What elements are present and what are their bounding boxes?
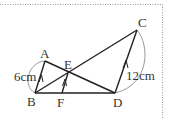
point-label-a: A <box>40 46 50 61</box>
measure-label-ab: 6cm <box>14 69 36 84</box>
point-label-e: E <box>64 57 72 72</box>
geometry-diagram: A B C D E F 6cm 12cm <box>0 0 172 119</box>
point-label-c: C <box>138 15 147 30</box>
point-label-d: D <box>113 95 122 110</box>
measure-arc-cd <box>115 30 145 93</box>
segment-bc <box>35 30 137 93</box>
point-label-b: B <box>27 94 36 109</box>
measure-label-cd: 12cm <box>126 68 155 83</box>
point-label-f: F <box>57 95 64 110</box>
